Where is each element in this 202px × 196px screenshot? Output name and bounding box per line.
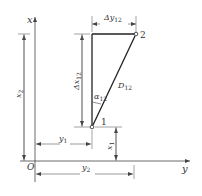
svg-text:x1: x1 — [105, 142, 115, 150]
x-axis: x — [27, 14, 35, 182]
y-axis: y — [20, 161, 190, 174]
point-2-label: 2 — [140, 30, 146, 40]
delta-x-dimension: Δx12 — [72, 34, 82, 127]
coordinate-triangle — [92, 34, 136, 127]
extension-lines — [18, 16, 136, 179]
y1-dimension: y1 — [36, 134, 91, 144]
azimuth-angle: α12 — [92, 92, 107, 104]
svg-text:x2: x2 — [14, 89, 24, 98]
svg-text:y2: y2 — [81, 163, 91, 173]
svg-text:α12: α12 — [94, 92, 107, 102]
x1-dimension: x1 — [105, 127, 116, 161]
origin-label: O — [27, 162, 35, 172]
svg-text:y1: y1 — [58, 134, 67, 144]
distance-label: D12 — [117, 81, 132, 91]
point-1-marker — [90, 125, 94, 129]
y-axis-label: y — [181, 163, 188, 174]
x-axis-label: x — [27, 14, 33, 25]
point-2-marker — [134, 32, 138, 36]
svg-text:Δy12: Δy12 — [103, 13, 122, 23]
x2-dimension: x2 — [14, 34, 24, 161]
y2-dimension: y2 — [36, 163, 133, 174]
svg-text:Δx12: Δx12 — [72, 72, 82, 91]
delta-y-dimension: Δy12 — [92, 13, 136, 24]
diagram-canvas: x y O 1 2 Δy12 Δx12 — [0, 0, 202, 196]
point-1-label: 1 — [101, 117, 107, 127]
